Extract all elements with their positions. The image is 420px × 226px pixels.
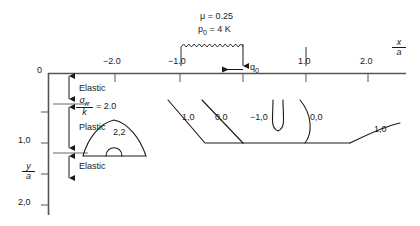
- stress-ratio-num: σrr: [76, 96, 93, 107]
- contour-line-1-0-left: [168, 100, 243, 143]
- contour-curves: [83, 100, 400, 156]
- contour-label-left-0-0: 0,0: [215, 113, 228, 122]
- contour-u-neg-1-0: [272, 100, 283, 131]
- y-axis-title: y a: [22, 162, 35, 182]
- contour-label-2-2: 2,2: [113, 128, 126, 137]
- traction-label: q0: [250, 63, 259, 74]
- stress-ratio-fraction: σrr k: [76, 96, 93, 118]
- friction-coefficient-label: μ = 0.25: [200, 12, 233, 21]
- contour-label-right-0-0: 0,0: [310, 113, 323, 122]
- x-tick-label--1.0: −1.0: [168, 57, 186, 66]
- stress-ratio-annotation: σrr k = 2.0: [76, 96, 113, 118]
- contour-arc-0-0-right: [300, 100, 310, 143]
- contour-inner-2-2: [106, 148, 122, 156]
- x-tick-label-2.0: 2.0: [360, 57, 373, 66]
- pressure-value: = 4 K: [207, 24, 231, 34]
- origin-label: 0: [37, 66, 42, 75]
- x-tick-label--2.0: −2.0: [103, 57, 121, 66]
- contour-label-far-right-1-0: 1,0: [374, 125, 387, 134]
- x-axis-title-den: a: [392, 47, 406, 57]
- traction-subscript: 0: [255, 67, 259, 74]
- stress-ratio-value: = 2.0: [96, 102, 116, 111]
- contour-label-center-neg-1-0: −1,0: [250, 113, 268, 122]
- x-axis-title-num: x: [392, 38, 406, 47]
- contact-pressure-label: p0 = 4 K: [198, 25, 231, 36]
- y-tick-label-2.0: 2,0: [18, 198, 31, 207]
- y-axis-title-den: a: [22, 171, 35, 181]
- figure-canvas: μ = 0.25 p0 = 4 K q0 −2.0 −1.0 1.0 2.0 0…: [0, 0, 420, 226]
- zone-label-plastic: Plastic: [79, 123, 106, 132]
- zone-label-elastic-bottom: Elastic: [79, 162, 106, 171]
- y-axis-title-num: y: [22, 162, 35, 171]
- contour-label-left-1-0: 1,0: [182, 113, 195, 122]
- x-axis-title: x a: [392, 38, 406, 58]
- stress-ratio-num-sub: rr: [85, 100, 90, 107]
- y-tick-label-1.0: 1,0: [18, 136, 31, 145]
- stress-ratio-den: k: [76, 107, 93, 117]
- x-axis-ticks: [115, 74, 368, 82]
- x-tick-label-1.0: 1.0: [298, 57, 311, 66]
- zone-label-elastic-top: Elastic: [79, 84, 106, 93]
